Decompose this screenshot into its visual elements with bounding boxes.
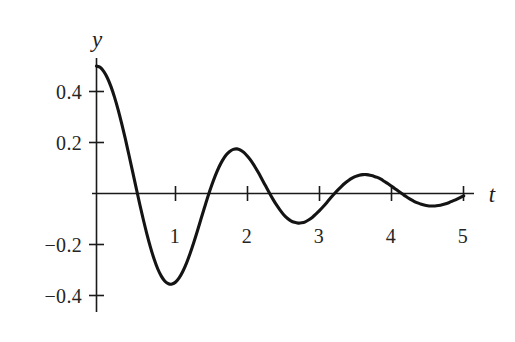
damped-oscillation-plot: 0.4 0.2 −0.2 −0.4 1 2 3 4 5 y t (0, 0, 515, 342)
x-tick-label-5: 5 (458, 225, 468, 247)
x-axis-label: t (489, 182, 496, 207)
y-tick-label-neg-0.2: −0.2 (45, 234, 82, 256)
y-axis-label: y (90, 27, 103, 52)
y-tick-label-neg-0.4: −0.4 (45, 285, 82, 307)
x-tick-label-1: 1 (170, 225, 180, 247)
x-tick-label-3: 3 (314, 225, 324, 247)
chart-figure: 0.4 0.2 −0.2 −0.4 1 2 3 4 5 y t (0, 0, 515, 342)
x-tick-label-2: 2 (242, 225, 252, 247)
y-tick-label-0.4: 0.4 (56, 81, 82, 103)
y-tick-label-0.2: 0.2 (56, 132, 82, 154)
series-damped-oscillation (97, 66, 464, 284)
x-tick-label-4: 4 (386, 225, 396, 247)
